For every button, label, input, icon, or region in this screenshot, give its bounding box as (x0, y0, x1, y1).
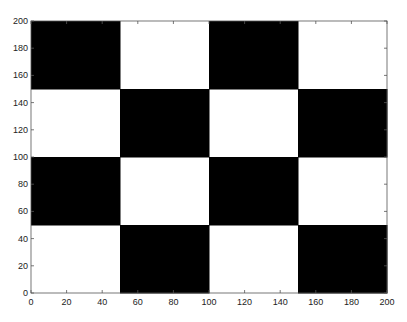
x-tick-label: 20 (62, 297, 72, 307)
x-tick-label: 80 (168, 297, 178, 307)
x-tick-label: 100 (201, 297, 216, 307)
filled-block (298, 89, 388, 158)
y-tick-label: 60 (18, 206, 28, 216)
y-tick-label: 100 (13, 152, 28, 162)
y-tick-label: 120 (13, 125, 28, 135)
y-tick-label: 200 (13, 16, 28, 26)
filled-block (209, 157, 299, 226)
filled-block (31, 157, 121, 226)
filled-block (120, 89, 210, 158)
y-tick-label: 140 (13, 98, 28, 108)
y-tick-label: 40 (18, 234, 28, 244)
x-tick-label: 120 (237, 297, 252, 307)
x-tick-label: 40 (97, 297, 107, 307)
y-tick-label: 80 (18, 179, 28, 189)
y-tick-label: 20 (18, 261, 28, 271)
y-tick-label: 180 (13, 43, 28, 53)
filled-block (298, 225, 388, 294)
x-tick-label: 160 (308, 297, 323, 307)
y-tick-label: 0 (23, 288, 28, 298)
checkerboard-chart: 020406080100120140160180200 020406080100… (0, 0, 407, 322)
filled-block (209, 21, 299, 90)
x-tick-label: 140 (273, 297, 288, 307)
filled-block (31, 21, 121, 90)
y-tick-label: 160 (13, 70, 28, 80)
x-tick-label: 200 (379, 297, 394, 307)
x-tick-label: 0 (28, 297, 33, 307)
x-tick-label: 180 (344, 297, 359, 307)
x-tick-label: 60 (133, 297, 143, 307)
filled-block (120, 225, 210, 294)
